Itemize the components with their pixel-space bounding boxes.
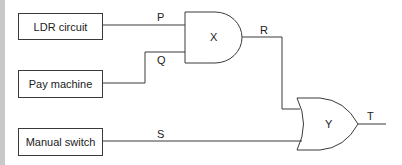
gate-y-label: Y <box>325 118 332 130</box>
pay-machine-box: Pay machine <box>18 70 103 98</box>
signal-q-label: Q <box>157 54 166 66</box>
ldr-circuit-box: LDR circuit <box>18 13 103 40</box>
signal-t-label: T <box>367 110 374 122</box>
signal-r-label: R <box>260 24 268 36</box>
wire-r <box>242 37 300 109</box>
manual-switch-box: Manual switch <box>18 128 103 156</box>
pay-machine-label: Pay machine <box>29 78 93 90</box>
gate-x-label: X <box>210 31 217 43</box>
ldr-circuit-label: LDR circuit <box>34 21 88 33</box>
manual-switch-label: Manual switch <box>26 136 96 148</box>
signal-s-label: S <box>157 128 164 140</box>
signal-p-label: P <box>157 11 164 23</box>
wire-q <box>102 52 185 83</box>
